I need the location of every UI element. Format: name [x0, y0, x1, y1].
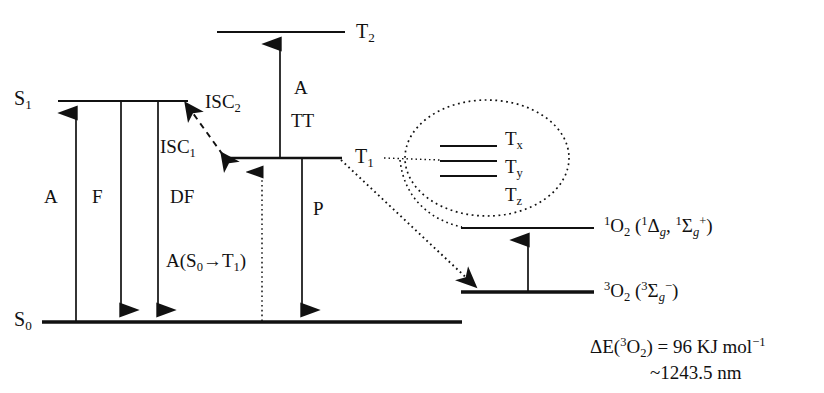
- label-state-s1: S1: [14, 88, 32, 111]
- label-singlet-oxygen: 1O2 (1Δg, 1Σg+): [604, 215, 713, 238]
- label-process-delayed-fluorescence: DF: [170, 187, 194, 206]
- label-state-ty: Ty: [505, 157, 523, 179]
- label-state-t1: T1: [355, 146, 374, 169]
- arrow-energy-transfer: [341, 160, 474, 285]
- label-process-isc2: ISC2: [205, 92, 241, 114]
- label-state-t2: T2: [356, 21, 375, 44]
- label-state-tx: Tx: [505, 129, 523, 151]
- sublevel-ellipse: [405, 100, 569, 216]
- label-process-isc1: ISC1: [160, 137, 196, 159]
- label-state-tz: Tz: [505, 185, 522, 207]
- leader-t1-to-sublevels: [384, 158, 440, 160]
- diagram-canvas: [0, 0, 824, 393]
- label-energy-gap-value: ΔE(3O2) = 96 KJ mol−1: [590, 336, 765, 359]
- label-process-tt-absorption-a: A: [294, 78, 308, 97]
- label-process-fluorescence: F: [92, 187, 103, 206]
- label-process-s0-to-t1-absorption: A(S0→T1): [166, 251, 246, 273]
- label-triplet-oxygen: 3O2 (3Σg−): [604, 280, 678, 303]
- curve-sublevels-to-singlet-oxygen: [400, 160, 462, 227]
- label-energy-gap-wavelength: ~1243.5 nm: [650, 363, 742, 382]
- label-process-absorption: A: [44, 187, 58, 206]
- label-state-s0: S0: [14, 309, 32, 332]
- label-process-tt: TT: [291, 111, 314, 130]
- jablonski-diagram: S1 S0 T1 T2 Tx Ty Tz A F DF A(S0→T1) A T…: [0, 0, 824, 393]
- label-process-phosphorescence: P: [313, 199, 324, 218]
